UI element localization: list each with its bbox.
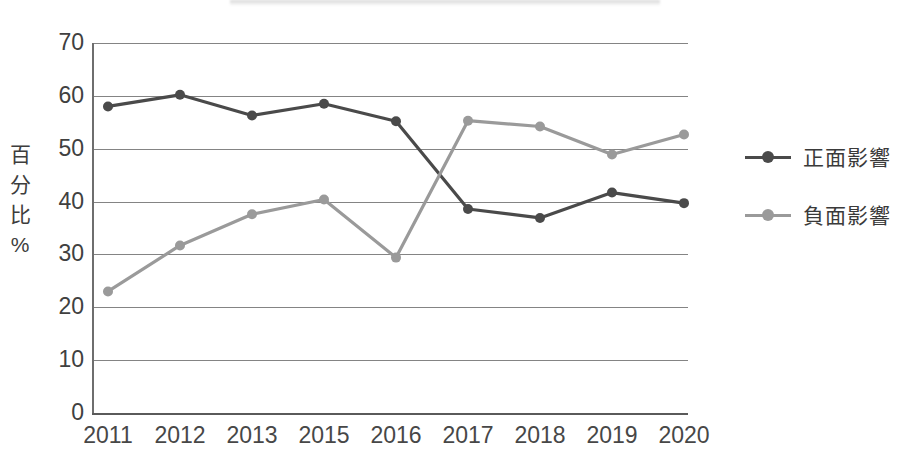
data-point[interactable] [607,150,617,160]
cropped-title-strip [230,0,660,6]
data-point[interactable] [679,198,689,208]
legend-item-1[interactable]: 正面影響 [745,128,895,186]
legend-label: 正面影響 [803,147,891,168]
y-axis-title-char-1: 百 [6,140,34,170]
y-tick-label-60: 60 [38,84,84,107]
series-layer [92,43,688,413]
data-point[interactable] [463,116,473,126]
data-point[interactable] [535,122,545,132]
x-tick-label-2020: 2020 [648,420,720,450]
plot-area [92,43,688,413]
series-1 [103,90,689,223]
data-point[interactable] [463,204,473,214]
data-point[interactable] [175,240,185,250]
data-point[interactable] [319,194,329,204]
legend-label: 負面影響 [803,205,891,226]
x-tick-label-2011: 2011 [72,420,144,450]
y-axis-title: 百 分 比 % [6,140,34,260]
x-tick-label-2013: 2013 [216,420,288,450]
data-point[interactable] [103,286,113,296]
x-tick-label-2012: 2012 [144,420,216,450]
x-axis-baseline [92,413,688,415]
x-tick-label-2016: 2016 [360,420,432,450]
series-line [108,95,684,218]
legend: 正面影響負面影響 [745,128,895,244]
data-point[interactable] [103,101,113,111]
line-chart: 百 分 比 % 706050403020100 2011201220132015… [0,0,897,464]
y-tick-label-10: 10 [38,348,84,371]
x-tick-label-2019: 2019 [576,420,648,450]
y-axis-tick-labels: 706050403020100 [32,43,84,413]
series-2 [103,116,689,297]
y-tick-label-70: 70 [38,31,84,54]
data-point[interactable] [247,110,257,120]
y-tick-label-40: 40 [38,190,84,213]
x-tick-label-2017: 2017 [432,420,504,450]
data-point[interactable] [679,129,689,139]
y-axis-title-char-3: 比 [6,200,34,230]
legend-dot-icon [762,151,774,163]
data-point[interactable] [391,253,401,263]
x-tick-label-2018: 2018 [504,420,576,450]
y-axis-title-char-2: 分 [6,170,34,200]
series-line [108,121,684,292]
data-point[interactable] [319,99,329,109]
legend-dot-icon [762,209,774,221]
legend-item-2[interactable]: 負面影響 [745,186,895,244]
y-axis-title-char-4: % [6,230,34,260]
x-tick-label-2015: 2015 [288,420,360,450]
y-tick-label-20: 20 [38,295,84,318]
y-tick-label-30: 30 [38,242,84,265]
data-point[interactable] [175,90,185,100]
data-point[interactable] [391,116,401,126]
legend-marker-icon [745,150,791,164]
data-point[interactable] [535,213,545,223]
data-point[interactable] [247,209,257,219]
y-tick-label-50: 50 [38,137,84,160]
legend-marker-icon [745,208,791,222]
data-point[interactable] [607,188,617,198]
x-axis-tick-labels: 201120122013201520162017201820192020 [92,420,688,456]
